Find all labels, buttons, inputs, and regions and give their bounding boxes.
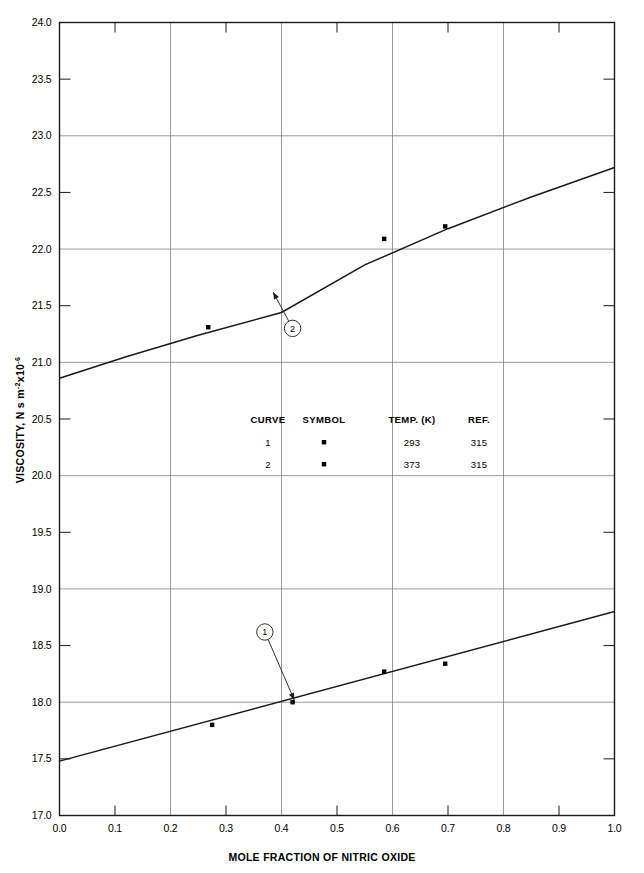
- data-marker-curve-1: [290, 700, 294, 704]
- y-tick-label: 18.0: [32, 696, 52, 708]
- y-tick-label: 20.5: [32, 413, 52, 425]
- y-axis-title-mid: x10: [14, 364, 26, 382]
- x-tick-label: 0.1: [108, 822, 122, 834]
- y-tick-label: 20.0: [32, 469, 52, 481]
- legend-header-2: TEMP. (K): [388, 414, 435, 425]
- callout-label-1: 1: [262, 627, 267, 637]
- x-tick-label: 0.0: [53, 822, 67, 834]
- legend-temp-1: 293: [404, 437, 420, 448]
- legend-curve-1: 1: [265, 437, 270, 448]
- y-axis-title-main: VISCOSITY, N s m: [14, 389, 26, 483]
- y-tick-label: 23.5: [32, 73, 52, 85]
- y-tick-label: 17.5: [32, 752, 52, 764]
- x-tick-label: 0.9: [552, 822, 566, 834]
- x-tick-label: 0.6: [386, 822, 400, 834]
- x-tick-label: 0.7: [441, 822, 455, 834]
- legend-header-3: REF.: [468, 414, 490, 425]
- data-marker-curve-1: [382, 669, 386, 673]
- y-tick-label: 19.0: [32, 583, 52, 595]
- x-tick-label: 0.3: [219, 822, 233, 834]
- y-tick-label: 21.5: [32, 299, 52, 311]
- legend-ref-2: 315: [471, 459, 487, 470]
- legend-ref-1: 315: [471, 437, 487, 448]
- data-marker-curve-2: [382, 237, 386, 241]
- callout-label-2: 2: [290, 324, 295, 334]
- x-tick-label: 0.2: [164, 822, 178, 834]
- y-tick-label: 17.0: [32, 809, 52, 821]
- y-tick-label: 23.0: [32, 129, 52, 141]
- x-tick-label: 0.5: [330, 822, 344, 834]
- y-tick-label: 24.0: [32, 16, 52, 28]
- viscosity-mole-fraction-chart: 0.00.10.20.30.40.50.60.70.80.91.017.017.…: [0, 0, 644, 873]
- data-marker-curve-1: [210, 723, 214, 727]
- y-tick-label: 22.5: [32, 186, 52, 198]
- data-marker-curve-2: [443, 224, 447, 228]
- legend-symbol-2: [322, 462, 326, 466]
- legend-header-0: CURVE: [250, 414, 285, 425]
- y-tick-label: 21.0: [32, 356, 52, 368]
- y-tick-label: 22.0: [32, 243, 52, 255]
- legend-temp-2: 373: [404, 459, 420, 470]
- y-tick-label: 18.5: [32, 639, 52, 651]
- y-axis-title-exp2: -6: [13, 357, 22, 364]
- data-marker-curve-1: [443, 661, 447, 665]
- chart-background: [0, 0, 644, 873]
- x-axis-title: MOLE FRACTION OF NITRIC OXIDE: [228, 851, 415, 863]
- x-tick-label: 0.4: [275, 822, 289, 834]
- x-tick-label: 1.0: [608, 822, 622, 834]
- y-axis-title-exp1: -2: [13, 382, 22, 389]
- legend-symbol-1: [322, 440, 326, 444]
- chart-figure: 0.00.10.20.30.40.50.60.70.80.91.017.017.…: [0, 0, 644, 873]
- legend-curve-2: 2: [265, 459, 270, 470]
- y-axis-title: VISCOSITY, N s m-2x10-6: [13, 357, 26, 484]
- legend-header-1: SYMBOL: [302, 414, 345, 425]
- x-tick-label: 0.8: [497, 822, 511, 834]
- data-marker-curve-2: [206, 325, 210, 329]
- y-tick-label: 19.5: [32, 526, 52, 538]
- svg-text:VISCOSITY, N s m-2x10-6: VISCOSITY, N s m-2x10-6: [13, 357, 26, 484]
